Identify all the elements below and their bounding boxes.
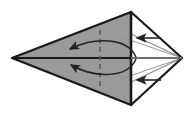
origami-diagram-svg <box>0 0 195 116</box>
origami-diagram-container <box>0 0 195 116</box>
